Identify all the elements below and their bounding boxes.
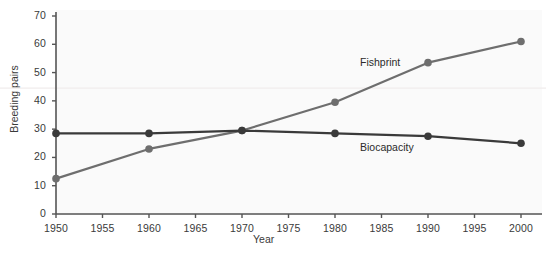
x-tick-label: 1995 [455, 222, 495, 234]
x-tick-label: 1965 [176, 222, 216, 234]
data-point-marker [238, 127, 246, 135]
x-axis-title: Year [253, 233, 274, 245]
data-point-marker [52, 130, 60, 138]
data-point-marker [145, 145, 153, 153]
x-tick-label: 2000 [501, 222, 541, 234]
x-tick-label: 1960 [129, 222, 169, 234]
chart-canvas [0, 0, 546, 257]
y-tick-label: 10 [22, 179, 46, 191]
x-tick-label: 1985 [362, 222, 402, 234]
data-point-marker [517, 139, 525, 147]
x-tick-label: 1955 [83, 222, 123, 234]
y-tick-label: 30 [22, 122, 46, 134]
series-label-fishprint: Fishprint [360, 56, 400, 68]
x-tick-label: 1990 [408, 222, 448, 234]
series-label-biocapacity: Biocapacity [360, 141, 414, 153]
data-point-marker [424, 132, 432, 140]
data-point-marker [424, 59, 432, 67]
x-tick-label: 1950 [36, 222, 76, 234]
y-tick-label: 60 [22, 37, 46, 49]
x-tick-label: 1980 [315, 222, 355, 234]
line-chart: 010203040506070 195019551960196519701975… [0, 0, 546, 257]
x-tick-label: 1975 [269, 222, 309, 234]
data-point-marker [331, 130, 339, 138]
y-axis-title: Breeding pairs [8, 59, 20, 139]
series-line-fishprint [56, 41, 521, 178]
y-tick-label: 70 [22, 9, 46, 21]
data-point-marker [517, 38, 525, 46]
data-point-marker [145, 130, 153, 138]
y-tick-label: 40 [22, 94, 46, 106]
y-tick-label: 20 [22, 150, 46, 162]
data-point-marker [52, 175, 60, 183]
y-tick-label: 0 [22, 207, 46, 219]
data-point-marker [331, 98, 339, 106]
data-series-group [52, 38, 525, 183]
y-tick-label: 50 [22, 66, 46, 78]
series-line-biocapacity [56, 131, 521, 144]
